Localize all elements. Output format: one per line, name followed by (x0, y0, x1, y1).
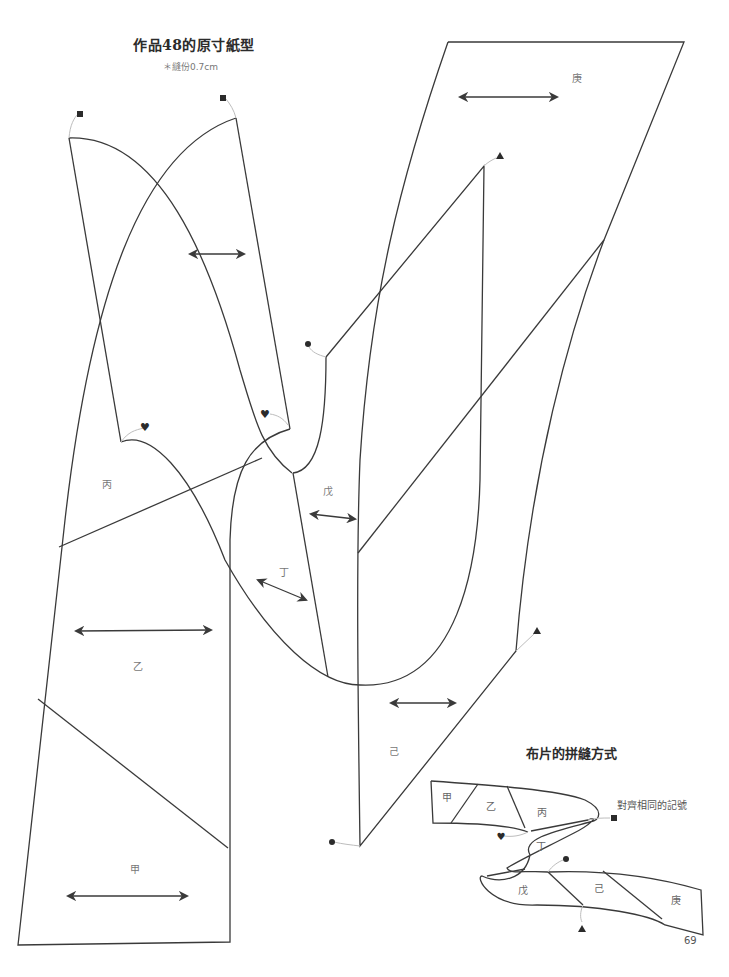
circle-marker-icon (305, 341, 311, 347)
triangle-marker-icon (533, 627, 541, 634)
square-marker-icon (611, 815, 617, 821)
square-marker-icon (220, 95, 226, 101)
label-ji: 己 (389, 743, 399, 758)
piece-jia-yi-bing-outline (18, 118, 360, 945)
heart-marker-icon: ♥ (140, 421, 150, 434)
circle-marker-icon (563, 856, 569, 862)
piece-ding-wu-outline (293, 166, 484, 685)
label-ding: 丁 (279, 564, 289, 579)
label-jia: 甲 (130, 861, 140, 876)
mini-label-wu: 戊 (518, 882, 528, 897)
grainline-arrow-yi (76, 630, 211, 631)
square-marker-icon (77, 111, 83, 117)
heart-marker-icon: ♥ (497, 831, 506, 842)
mini-label-ding: 丁 (536, 838, 546, 853)
mini-label-bing: 丙 (537, 804, 547, 819)
mini-label-geng: 庚 (671, 892, 681, 907)
assembly-title: 布片的拼縫方式 (526, 743, 617, 762)
page-number: 69 (684, 935, 697, 946)
label-geng: 庚 (572, 70, 582, 85)
circle-marker-icon (329, 839, 335, 845)
grainline-arrow-wu (311, 514, 355, 519)
triangle-marker-icon (496, 152, 504, 159)
label-wu: 戊 (323, 483, 333, 498)
label-bing: 丙 (102, 476, 112, 491)
piece-ji-geng-outline (358, 42, 684, 846)
assembly-note: 對齊相同的記號 (617, 797, 687, 812)
grainline-arrow-ding (258, 580, 306, 600)
triangle-marker-icon (578, 925, 586, 932)
mini-label-ji: 己 (594, 880, 604, 895)
heart-marker-icon: ♥ (260, 408, 270, 421)
mini-label-yi: 乙 (486, 798, 496, 813)
label-yi: 乙 (133, 658, 143, 673)
mini-label-jia: 甲 (442, 789, 452, 804)
